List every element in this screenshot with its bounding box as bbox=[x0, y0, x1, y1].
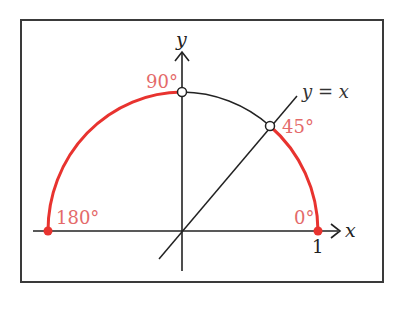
y-axis-label: y bbox=[175, 28, 187, 50]
x-axis-label: x bbox=[345, 219, 356, 241]
point-180-deg bbox=[44, 227, 53, 236]
label-180-deg: 180° bbox=[56, 207, 99, 228]
line-y-equals-x bbox=[159, 96, 297, 259]
point-0-deg bbox=[314, 227, 323, 236]
unit-circle-diagram: y x 1 y = x 90° 45° 180° 0° bbox=[0, 0, 407, 310]
x-tick-label: 1 bbox=[312, 236, 323, 257]
label-0-deg: 0° bbox=[294, 207, 314, 228]
line-label: y = x bbox=[301, 81, 349, 102]
label-90-deg: 90° bbox=[146, 71, 178, 92]
point-45-deg bbox=[266, 122, 275, 131]
point-90-deg bbox=[178, 88, 187, 97]
label-45-deg: 45° bbox=[282, 116, 314, 137]
arc-45-to-90 bbox=[182, 92, 270, 126]
